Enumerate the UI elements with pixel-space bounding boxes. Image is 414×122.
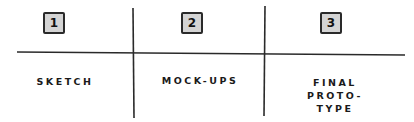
step-2-number-box: 2 [181,12,203,34]
label-line: FINAL [285,76,385,89]
label-line: TYPE [285,102,385,115]
label-line: PROTO- [285,89,385,102]
step-3-number-box: 3 [320,12,342,34]
step-1-number-box: 1 [43,12,65,34]
label-line: SKETCH [20,75,110,88]
step-3-label: FINAL PROTO- TYPE [285,76,385,115]
step-2-label: MOCK-UPS [150,74,250,87]
label-line: MOCK-UPS [150,74,250,87]
step-1-label: SKETCH [20,75,110,88]
